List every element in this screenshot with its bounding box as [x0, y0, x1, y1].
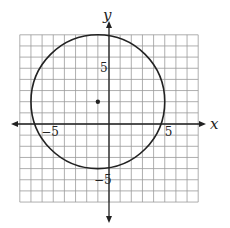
y-tick-label: 5 — [100, 61, 108, 75]
x-axis-arrow-left — [11, 121, 18, 127]
x-tick-label: 5 — [165, 125, 173, 139]
center-point — [96, 100, 100, 104]
coordinate-plane: xy−555−5 — [0, 0, 230, 228]
y-axis-arrow-down — [106, 216, 112, 223]
x-axis-arrow-right — [199, 121, 206, 127]
x-tick-label: −5 — [41, 125, 59, 139]
x-axis-label: x — [210, 115, 219, 133]
axes — [11, 21, 206, 223]
y-axis-label: y — [102, 6, 112, 24]
y-tick-label: −5 — [94, 173, 112, 187]
